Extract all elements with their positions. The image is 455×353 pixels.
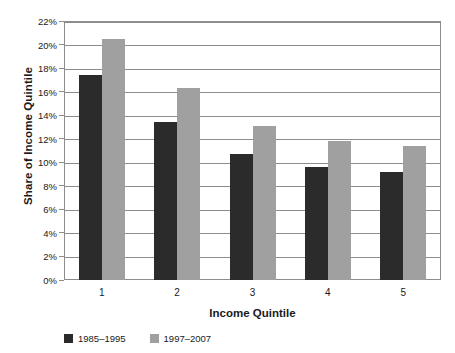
y-tick-label: 20% [17,39,57,50]
legend-swatch [150,334,159,343]
y-tick-label: 14% [17,110,57,121]
y-tick-label: 4% [17,227,57,238]
legend-swatch [64,334,73,343]
x-tick-label: 1 [72,287,132,298]
bar [328,141,351,280]
legend-label: 1985–1995 [78,333,126,344]
bars-layer [64,21,441,280]
y-tick-label: 18% [17,63,57,74]
legend: 1985–19951997–2007 [64,333,211,344]
legend-label: 1997–2007 [164,333,212,344]
bar [154,122,177,280]
y-tick-label: 12% [17,133,57,144]
y-tick-label: 8% [17,180,57,191]
y-tick-label: 22% [17,16,57,27]
y-tick-label: 16% [17,86,57,97]
x-tick-label: 3 [223,287,283,298]
bar [253,126,276,280]
x-tick-label: 5 [373,287,433,298]
legend-item: 1985–1995 [64,333,126,344]
y-tick-label: 6% [17,204,57,215]
y-tick-label: 2% [17,251,57,262]
bar [79,75,102,280]
bar [380,172,403,280]
y-tick-label: 0% [17,275,57,286]
y-tick-label: 10% [17,157,57,168]
bar-chart: Share of Income Quintile 0%2%4%6%8%10%12… [0,0,455,353]
x-tick-label: 4 [298,287,358,298]
bar [403,146,426,280]
bar [177,88,200,280]
legend-item: 1997–2007 [150,333,212,344]
x-axis-title: Income Quintile [64,307,441,319]
x-tick-label: 2 [147,287,207,298]
bar [305,167,328,280]
bar [102,39,125,280]
bar [230,154,253,280]
